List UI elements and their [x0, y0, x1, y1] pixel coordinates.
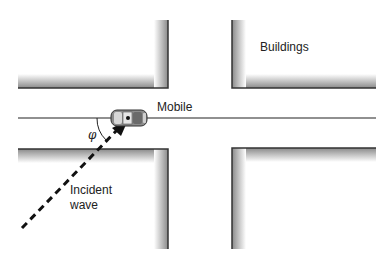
angle-label: φ [88, 128, 96, 142]
building-top-left [18, 20, 168, 88]
building-top-right [232, 20, 376, 88]
building-bottom-right [232, 148, 376, 249]
incident-wave-line [22, 129, 118, 228]
intersection-diagram [0, 0, 390, 262]
mobile-label: Mobile [157, 100, 192, 114]
mobile-antenna-dot [126, 116, 130, 120]
buildings-label: Buildings [260, 40, 309, 54]
mobile-car [111, 110, 147, 126]
incident-wave-label-line2: wave [70, 198, 98, 212]
incident-wave-label-line1: Incident [70, 183, 112, 197]
angle-arc [97, 118, 106, 140]
